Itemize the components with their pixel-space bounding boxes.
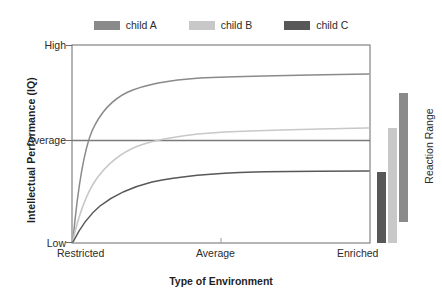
reaction-range-bar-child-b (388, 128, 397, 243)
curve-child-c (73, 171, 369, 242)
plot-canvas (0, 0, 442, 297)
reaction-range-chart: child A child B child C Intellectual Per… (0, 0, 442, 297)
reaction-range-bar-child-c (377, 172, 386, 243)
reaction-range-label: Reaction Range (423, 86, 435, 206)
reaction-range-bar-child-a (399, 93, 408, 222)
curve-child-b (73, 128, 369, 240)
